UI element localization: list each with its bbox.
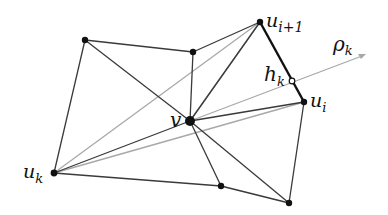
node-v (185, 116, 195, 126)
edge (190, 52, 193, 121)
label-u-i-plus-1: ui+1 (266, 9, 303, 35)
node-h-k-hollow (289, 78, 295, 84)
node-u-i (301, 99, 307, 105)
edge (190, 121, 221, 186)
label-rho-k: ρk (332, 32, 353, 58)
edge-uk-ui1-gray (54, 22, 260, 173)
label-v: v (170, 108, 182, 132)
label-subscript: k (345, 43, 353, 58)
label-base: u (310, 89, 322, 111)
label-base: ρ (332, 32, 345, 56)
label-base: u (23, 160, 35, 182)
node-u-k (51, 170, 58, 177)
label-subscript: i (322, 100, 326, 115)
edge (54, 173, 221, 186)
edge (85, 40, 193, 52)
label-h-k: hk (264, 62, 285, 89)
node-top-mid (190, 49, 196, 55)
edge (190, 22, 260, 121)
edge (289, 102, 304, 203)
triangulation-diagram: v ui+1 hk ui uk ρk (0, 0, 388, 215)
node-bottom-1 (218, 183, 224, 189)
label-u-i: ui (310, 89, 326, 115)
label-u-k: uk (23, 160, 43, 186)
node-u-i-plus-1 (257, 19, 263, 25)
label-subscript: k (277, 74, 285, 89)
label-base: u (266, 9, 278, 31)
label-subscript: i+1 (278, 19, 303, 35)
node-top-left (82, 37, 88, 43)
label-base: h (264, 62, 277, 86)
node-bottom-2 (286, 200, 292, 206)
label-subscript: k (35, 171, 43, 186)
